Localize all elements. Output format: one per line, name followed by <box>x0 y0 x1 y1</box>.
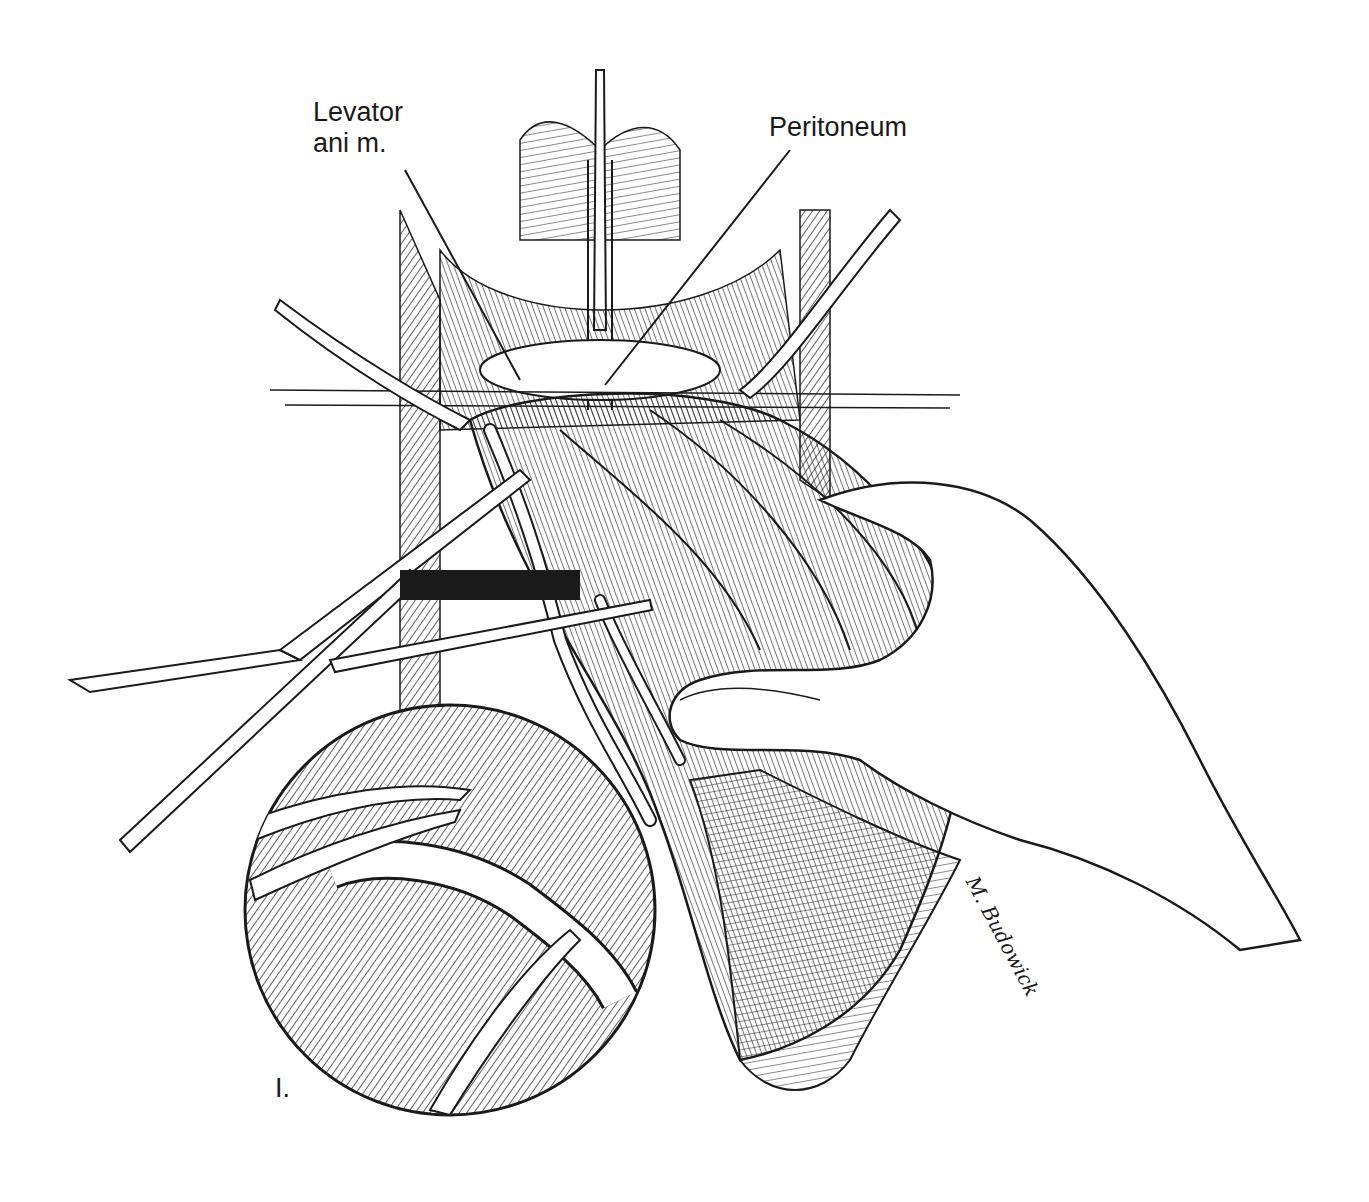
surgical-illustration <box>0 0 1369 1202</box>
panel-label: I. <box>275 1073 290 1104</box>
label-peritoneum: Peritoneum <box>769 112 907 143</box>
label-levator-ani: Levator ani m. <box>313 97 403 159</box>
detail-inset-circle <box>240 700 660 1120</box>
